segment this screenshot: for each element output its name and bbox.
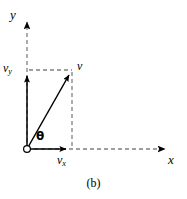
origin-marker: [24, 146, 31, 153]
vy-subscript: y: [8, 67, 12, 76]
vector-decomposition-figure: y x vy vx v θ (b): [0, 0, 187, 199]
x-axis-label: x: [168, 153, 174, 166]
theta-angle-label: θ: [36, 130, 44, 142]
vx-subscript: x: [62, 159, 66, 168]
vy-component-label: vy: [3, 62, 12, 76]
vector-diagram-canvas: [0, 0, 187, 199]
resultant-vector-label: v: [77, 60, 82, 72]
resultant-velocity-vector: [27, 75, 69, 149]
y-axis-label: y: [10, 8, 16, 21]
vx-component-label: vx: [57, 154, 66, 168]
figure-caption: (b): [0, 176, 187, 191]
